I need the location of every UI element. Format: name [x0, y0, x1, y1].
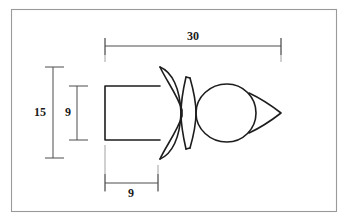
collar-right-edge — [190, 78, 196, 148]
dim-15-label: 15 — [34, 105, 46, 119]
bulb-head-circle — [196, 84, 256, 142]
technical-drawing-svg: 30 15 9 9 — [0, 0, 349, 222]
flange-right-waist — [160, 67, 182, 159]
dim-30-label: 30 — [187, 29, 199, 43]
dim-9v-label: 9 — [65, 105, 71, 119]
dim-9h-label: 9 — [128, 186, 134, 200]
drawing-canvas: 30 15 9 9 — [0, 0, 349, 222]
pointed-tip-tail — [249, 93, 281, 133]
shank-rectangle — [105, 86, 160, 140]
collar-caps — [186, 77, 190, 149]
collar-left-edge — [181, 77, 186, 149]
flange-left-profile — [160, 67, 181, 159]
drawing-frame-border — [12, 10, 337, 212]
